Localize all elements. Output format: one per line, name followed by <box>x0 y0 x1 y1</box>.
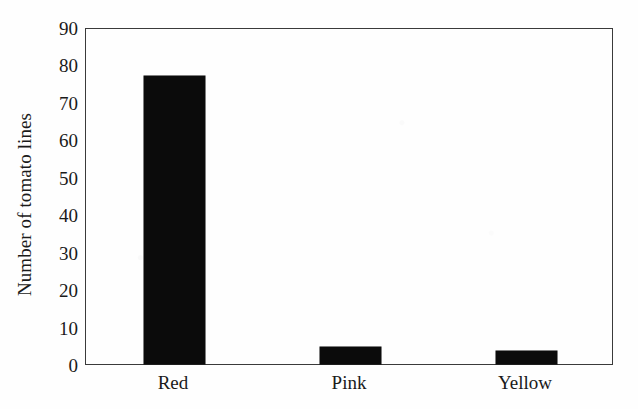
x-tick-label: Pink <box>332 372 367 395</box>
y-tick-label: 60 <box>44 131 78 150</box>
y-tick-label: 0 <box>44 356 78 375</box>
y-tick-label: 30 <box>44 243 78 262</box>
bar-yellow <box>496 351 557 364</box>
y-tick-label: 40 <box>44 206 78 225</box>
x-tick-label: Red <box>158 372 189 395</box>
y-tick-label: 10 <box>44 318 78 337</box>
y-tick-label: 20 <box>44 281 78 300</box>
bar-chart-figure: Number of tomato lines 90807060504030201… <box>0 0 638 409</box>
bar-pink <box>320 347 381 364</box>
y-axis-title-text: Number of tomato lines <box>14 113 36 296</box>
y-tick-label: 70 <box>44 93 78 112</box>
x-tick-label: Yellow <box>498 372 552 395</box>
plot-frame <box>85 28 613 365</box>
y-tick-label: 80 <box>44 56 78 75</box>
y-tick-label: 50 <box>44 168 78 187</box>
y-axis-title: Number of tomato lines <box>0 0 50 409</box>
bar-red <box>144 76 205 364</box>
plot-area <box>86 29 612 364</box>
y-tick-label: 90 <box>44 19 78 38</box>
x-axis-tick-labels: RedPinkYellow <box>85 372 613 402</box>
y-axis-tick-labels: 9080706050403020100 <box>44 0 78 409</box>
